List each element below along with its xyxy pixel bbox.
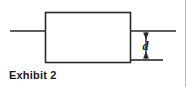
figure-caption: Exhibit 2	[9, 69, 57, 81]
exhibit-figure: d Exhibit 2	[0, 0, 186, 87]
dimension-label: d	[143, 39, 150, 53]
rectangle-block	[46, 13, 131, 63]
arrowhead-up-icon	[143, 52, 149, 59]
